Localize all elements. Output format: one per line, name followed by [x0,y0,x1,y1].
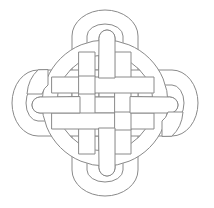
band-vertical-right [115,52,131,154]
band-vertical-left [79,52,95,154]
lobe-bottom-hook-overlay [99,128,115,176]
band-horizontal-bottom [52,113,154,129]
celtic-knot-artboard [0,0,214,208]
celtic-knot-illustration [0,0,214,208]
lobe-left-hook-overlay [32,97,80,113]
lobe-top-hook-overlay [99,30,115,78]
crossing-bottom-right-over [115,112,131,130]
crossing-top-left-over [79,76,95,94]
lobe-right-hook-overlay [130,97,178,113]
band-horizontal-top [52,77,154,93]
